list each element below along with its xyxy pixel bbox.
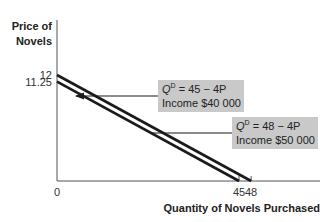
demand-chart: 045481211.25 QD = 45 − 4PIncome $40 000Q… bbox=[0, 0, 336, 222]
x-tick-label: 0 bbox=[54, 186, 60, 198]
annotation-40000-income: Income $40 000 bbox=[162, 97, 241, 109]
y-axis-label-line1: Price of bbox=[12, 20, 53, 32]
x-tick-label: 48 bbox=[245, 186, 257, 198]
y-tick-label: 11.25 bbox=[25, 76, 52, 88]
x-tick-label: 45 bbox=[233, 186, 245, 198]
y-axis-label-line2: Novels bbox=[16, 35, 52, 47]
x-axis-label: Quantity of Novels Purchased bbox=[164, 202, 320, 214]
annotation-50000-income: Income $50 000 bbox=[236, 134, 315, 146]
